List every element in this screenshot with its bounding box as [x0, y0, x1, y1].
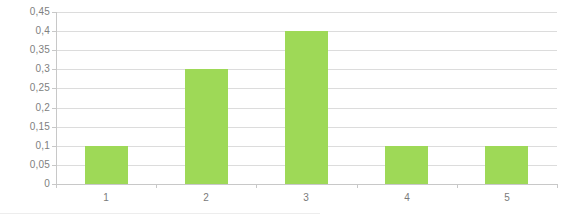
y-axis-tick-label: 0 — [4, 179, 50, 189]
bar — [185, 69, 228, 184]
y-axis-tick-labels: 00,050,10,150,20,250,30,350,40,45 — [0, 0, 50, 217]
y-axis-tick-label: 0,2 — [4, 103, 50, 113]
x-axis-tick-label: 4 — [357, 192, 457, 204]
bar — [285, 31, 328, 184]
bar — [385, 146, 428, 184]
x-axis-tick-label: 1 — [56, 192, 156, 204]
y-axis-tick-label: 0,15 — [4, 122, 50, 132]
x-axis-tick-origin — [56, 184, 57, 188]
x-axis-tick — [256, 184, 257, 188]
x-axis-tick — [156, 184, 157, 188]
x-axis-tick-label: 3 — [256, 192, 356, 204]
y-axis-tick-label: 0,45 — [4, 7, 50, 17]
y-axis-tick-label: 0,05 — [4, 160, 50, 170]
x-axis-tick-label: 2 — [156, 192, 256, 204]
x-axis-tick — [357, 184, 358, 188]
x-axis-baseline — [56, 184, 557, 185]
bar-chart: 00,050,10,150,20,250,30,350,40,45 12345 — [0, 0, 565, 217]
y-axis-tick-label: 0,3 — [4, 64, 50, 74]
bar-series — [56, 12, 557, 184]
x-axis-tick-label: 5 — [457, 192, 557, 204]
y-axis-tick-label: 0,1 — [4, 141, 50, 151]
y-axis-tick-label: 0,35 — [4, 45, 50, 55]
y-axis-tick-label: 0,4 — [4, 26, 50, 36]
y-axis-tick-label: 0,25 — [4, 83, 50, 93]
x-axis-tick — [457, 184, 458, 188]
x-axis-tick — [557, 184, 558, 188]
scan-artifact — [0, 213, 320, 214]
bar — [85, 146, 128, 184]
bar — [485, 146, 528, 184]
